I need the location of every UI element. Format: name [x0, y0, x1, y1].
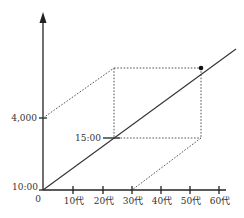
main-line: [43, 49, 236, 190]
x-tick-label-40: 40代: [152, 196, 172, 206]
diagram: 4,000 15:00 10:00 0 10代 20代 30代 40代 50代 …: [0, 0, 244, 218]
x-tick-label-60: 60代: [210, 196, 230, 206]
dashed-box: [43, 68, 201, 190]
y-label-1500: 15:00: [75, 133, 101, 143]
x-tick-label-50: 50代: [181, 196, 201, 206]
x-tick-label-30: 30代: [123, 196, 143, 206]
y-axis-arrow-icon: [40, 12, 47, 23]
y-label-4000: 4,000: [11, 113, 37, 123]
origin-label: 0: [35, 194, 41, 204]
x-tick-label-20: 20代: [94, 196, 114, 206]
y-label-1000: 10:00: [12, 182, 38, 192]
marked-point: [199, 66, 204, 71]
x-tick-label-10: 10代: [64, 196, 84, 206]
